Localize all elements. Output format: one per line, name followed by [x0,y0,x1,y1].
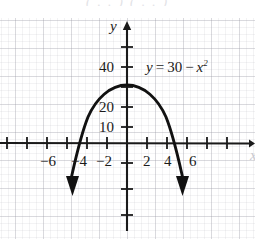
y-axis-label: y [110,19,117,34]
y-axis [121,21,133,231]
equation-constant: 30 [167,59,182,75]
y-tick-label-10: 10 [99,120,114,135]
x-tick-label-2: 2 [143,154,151,169]
equation-lhs: y [146,59,153,75]
equation-annotation: y=30−x2 [146,59,208,75]
equation-minus: − [185,59,193,75]
figure-canvas: ( . . ) ( . . ) [0,0,255,239]
x-tick-label-minus2: −2 [96,154,112,169]
y-tick-label-40: 40 [99,60,114,75]
x-tick-label-minus4: −4 [71,154,87,169]
x-tick-label-6: 6 [189,154,197,169]
x-axis-label: x [250,148,255,163]
graph-plot [0,0,255,239]
x-tick-label-4: 4 [164,154,172,169]
equation-exponent: 2 [203,58,208,68]
y-tick-label-20: 20 [99,100,114,115]
equation-equals: = [156,59,164,75]
x-tick-label-minus6: −6 [40,154,56,169]
